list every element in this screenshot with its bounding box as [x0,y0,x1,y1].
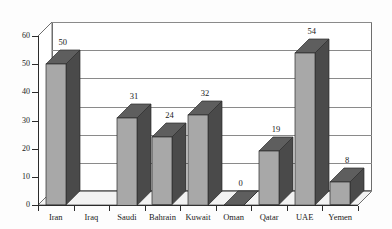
y-tick-label-10: 10 [6,173,30,181]
bar-oman[interactable] [224,191,260,207]
value-label-uae: 54 [307,27,316,36]
value-label-saudi: 31 [130,92,139,101]
y-tick-label-0: 0 [6,201,30,209]
y-tick-label-30: 30 [6,117,30,125]
x-tick-end [358,206,359,211]
x-tick-0 [38,206,39,211]
value-label-iran: 50 [59,38,68,47]
x-tick-4 [180,206,181,211]
y-tick-label-50: 50 [6,60,30,68]
x-axis-label-iraq: Iraq [84,212,98,222]
gridline-60 [52,22,372,23]
value-label-kuwait: 32 [201,89,210,98]
y-tick-label-60: 60 [6,32,30,40]
value-label-oman: 0 [238,179,242,188]
value-label-yemen: 8 [345,156,349,165]
x-axis-label-iran: Iran [49,212,63,222]
x-axis-label-oman: Oman [223,212,244,222]
y-tick-label-20: 20 [6,145,30,153]
x-axis-label-qatar: Qatar [260,212,279,222]
x-tick-7 [287,206,288,211]
x-tick-6 [251,206,252,211]
bar-kuwait[interactable] [188,101,224,207]
bar-uae[interactable] [295,39,331,207]
bar-chart: 0102030405060 50312432019548 IranIraqSau… [0,0,392,229]
x-axis-label-bahrain: Bahrain [149,212,176,222]
bar-bahrain[interactable] [152,123,188,207]
value-label-qatar: 19 [272,125,281,134]
bar-yemen[interactable] [330,168,366,207]
bar-saudi[interactable] [117,104,153,207]
x-tick-5 [216,206,217,211]
y-axis-line [38,36,39,205]
bar-qatar[interactable] [259,137,295,207]
x-tick-2 [109,206,110,211]
x-axis-label-saudi: Saudi [117,212,136,222]
x-axis-label-kuwait: Kuwait [185,212,210,222]
y-tick-label-40: 40 [6,88,30,96]
x-tick-1 [74,206,75,211]
x-tick-8 [322,206,323,211]
x-axis-label-uae: UAE [296,212,313,222]
x-tick-3 [145,206,146,211]
value-label-bahrain: 24 [165,111,174,120]
x-axis-label-yemen: Yemen [328,212,352,222]
bar-iran[interactable] [46,50,82,207]
